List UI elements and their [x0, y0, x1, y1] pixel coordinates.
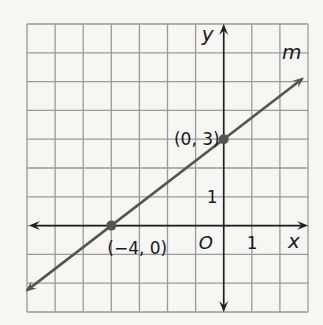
y-axis-label: y: [201, 22, 215, 46]
point-marker: [106, 221, 116, 231]
coordinate-plane: y x O 1 1 m (0, 3) (−4, 0): [0, 0, 323, 325]
grid: [27, 24, 308, 312]
origin-label: O: [199, 232, 213, 253]
x-tick-label: 1: [247, 233, 258, 253]
x-axis-label: x: [287, 229, 300, 253]
point-label-neg4-0: (−4, 0): [107, 238, 167, 258]
y-tick-label: 1: [207, 187, 218, 207]
point-label-0-3: (0, 3): [174, 129, 220, 149]
line-label-m: m: [282, 40, 301, 64]
point-marker: [219, 134, 229, 144]
